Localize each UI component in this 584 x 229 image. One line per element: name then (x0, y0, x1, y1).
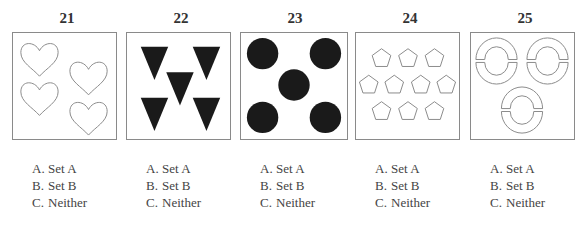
figure-box-pentagons (355, 32, 460, 140)
question-number: 24 (355, 10, 465, 27)
option-b[interactable]: B.Set B (260, 177, 315, 194)
option-a[interactable]: A.Set A (490, 160, 545, 177)
question-number: 22 (126, 10, 236, 27)
option-a[interactable]: A.Set A (32, 160, 87, 177)
answer-options: A.Set A B.Set B C.Neither (260, 160, 315, 211)
question-number: 21 (12, 10, 122, 27)
split-ring-icon-group (471, 33, 574, 139)
option-a[interactable]: A.Set A (260, 160, 315, 177)
option-a[interactable]: A.Set A (375, 160, 430, 177)
triangle-icon-group (127, 33, 230, 139)
heart-icon-group (13, 33, 116, 139)
option-c[interactable]: C.Neither (32, 194, 87, 211)
question-number: 23 (240, 10, 350, 27)
option-a[interactable]: A.Set A (146, 160, 201, 177)
figure-box-hearts (12, 32, 117, 140)
answer-options: A.Set A B.Set B C.Neither (32, 160, 87, 211)
answer-options: A.Set A B.Set B C.Neither (146, 160, 201, 211)
option-c[interactable]: C.Neither (375, 194, 430, 211)
option-b[interactable]: B.Set B (375, 177, 430, 194)
pentagon-icon-group (356, 33, 459, 139)
option-c[interactable]: C.Neither (146, 194, 201, 211)
question-number: 25 (470, 10, 580, 27)
option-b[interactable]: B.Set B (146, 177, 201, 194)
option-b[interactable]: B.Set B (32, 177, 87, 194)
figure-box-triangles (126, 32, 231, 140)
option-b[interactable]: B.Set B (490, 177, 545, 194)
circle-icon-group (241, 33, 347, 139)
figure-box-rings (470, 32, 575, 140)
answer-options: A.Set A B.Set B C.Neither (375, 160, 430, 211)
option-c[interactable]: C.Neither (260, 194, 315, 211)
option-c[interactable]: C.Neither (490, 194, 545, 211)
figure-box-circles (240, 32, 348, 140)
answer-options: A.Set A B.Set B C.Neither (490, 160, 545, 211)
